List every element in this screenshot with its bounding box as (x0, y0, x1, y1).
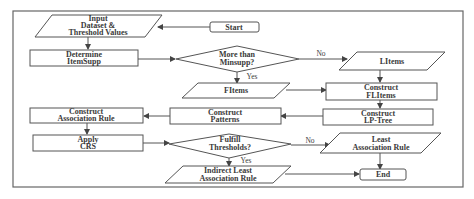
node-construct-patterns: Construct Patterns (170, 108, 281, 124)
apply-crs-label-line2: CRS (80, 142, 97, 151)
decision2-label-line2: Thresholds? (209, 143, 251, 152)
flowchart: Start Input Dataset & Threshold Values D… (0, 0, 474, 199)
construct-flitems-label-line2: FLItems (366, 91, 395, 100)
decision1-label-line2: Minsupp? (220, 58, 255, 67)
least-rule-label-line2: Association Rule (352, 143, 410, 152)
node-fitems: FItems (182, 83, 290, 98)
node-indirect-rule: Indirect Least Association Rule (165, 166, 291, 183)
node-litems: LItems (339, 52, 445, 70)
litems-label: LItems (380, 57, 404, 66)
node-end: End (360, 169, 406, 180)
node-construct-rule: Construct Association Rule (30, 107, 143, 123)
construct-lptree-label-line2: LP-Tree (364, 116, 393, 125)
decision1-yes-label: Yes (247, 72, 258, 81)
decision2-yes-label: Yes (241, 156, 252, 165)
node-construct-flitems: Construct FLItems (326, 83, 437, 100)
node-start: Start (210, 22, 259, 32)
start-label: Start (225, 23, 243, 32)
construct-patterns-label-line2: Patterns (211, 115, 240, 124)
construct-rule-label-line2: Association Rule (57, 114, 115, 123)
determine-label-line2: ItemSupp (67, 57, 101, 66)
decision1-no-label: No (316, 49, 325, 58)
indirect-rule-label-line2: Association Rule (199, 174, 257, 183)
input-label-line3: Threshold Values (68, 28, 127, 37)
decision2-no-label: No (305, 136, 314, 145)
node-construct-lptree: Construct LP-Tree (323, 109, 433, 125)
node-determine: Determine ItemSupp (30, 50, 138, 66)
node-apply-crs: Apply CRS (33, 135, 143, 151)
node-input: Input Dataset & Threshold Values (35, 14, 162, 37)
end-label: End (376, 170, 391, 179)
node-least-rule: Least Association Rule (320, 133, 441, 153)
fitems-label: FItems (224, 86, 248, 95)
